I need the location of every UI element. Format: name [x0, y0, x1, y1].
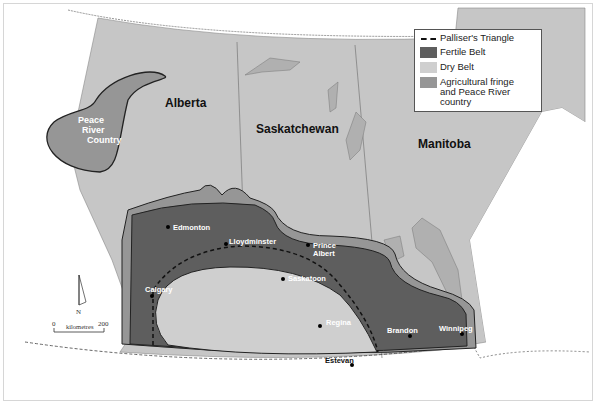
- city-label-regina: Regina: [326, 318, 352, 327]
- peace-river-label-3: Country: [87, 135, 122, 145]
- city-dot-prince-albert: [306, 243, 310, 247]
- legend-label: Palliser's Triangle: [440, 33, 514, 43]
- scale-bar: 0 200 kilometres: [52, 320, 109, 332]
- legend-label: Fertile Belt: [440, 47, 485, 57]
- city-label-saskatoon: Saskatoon: [288, 274, 326, 283]
- map-legend: Palliser's Triangle Fertile Belt Dry Bel…: [414, 29, 542, 112]
- legend-label: Dry Belt: [440, 62, 474, 72]
- city-label-winnipeg: Winnipeg: [439, 324, 473, 333]
- dashed-line-icon: [420, 33, 437, 43]
- city-label-calgary: Calgary: [145, 285, 173, 294]
- scale-start: 0: [52, 320, 56, 328]
- dry-belt-swatch: [420, 62, 437, 73]
- scale-end: 200: [98, 320, 109, 328]
- legend-item-agricultural-fringe: Agricultural fringeand Peace River count…: [420, 77, 536, 107]
- peace-river-label-1: Peace: [78, 115, 104, 125]
- city-label-lloydminster: Lloydminster: [229, 237, 276, 246]
- city-dot-regina: [318, 324, 322, 328]
- north-arrow-icon: N: [76, 275, 86, 316]
- province-label-manitoba: Manitoba: [418, 137, 471, 151]
- province-label-alberta: Alberta: [165, 96, 207, 110]
- city-dot-saskatoon: [281, 277, 285, 281]
- city-dot-lloydminster: [224, 242, 228, 246]
- north-label: N: [76, 308, 81, 316]
- city-label-prince-albert-2: Albert: [313, 249, 335, 258]
- city-label-edmonton: Edmonton: [173, 223, 210, 232]
- legend-item-palliser: Palliser's Triangle: [420, 33, 536, 43]
- scale-unit: kilometres: [66, 323, 94, 330]
- province-label-saskatchewan: Saskatchewan: [256, 122, 339, 136]
- city-label-brandon: Brandon: [387, 326, 418, 335]
- legend-label: Agricultural fringeand Peace River count…: [440, 77, 536, 107]
- legend-item-dry-belt: Dry Belt: [420, 62, 536, 73]
- agricultural-fringe-swatch: [420, 77, 437, 88]
- fertile-belt-swatch: [420, 47, 437, 58]
- legend-item-fertile-belt: Fertile Belt: [420, 47, 536, 58]
- peace-river-label-2: River: [82, 125, 105, 135]
- city-dot-edmonton: [166, 225, 170, 229]
- city-label-estevan: Estevan: [325, 356, 354, 365]
- city-dot-calgary: [150, 294, 154, 298]
